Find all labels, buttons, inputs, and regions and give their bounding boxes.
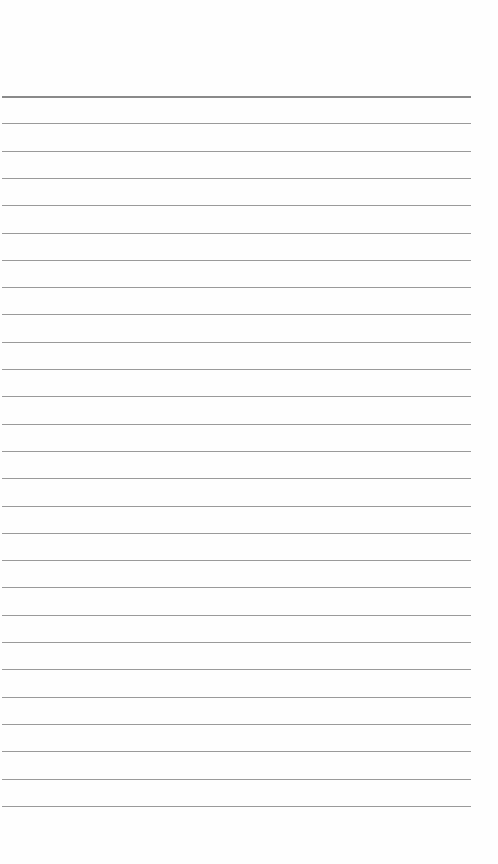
- ruled-line: [2, 205, 471, 206]
- ruled-line: [2, 342, 471, 343]
- ruled-line: [2, 96, 471, 98]
- lined-paper-page: [0, 0, 498, 864]
- ruled-line: [2, 151, 471, 152]
- ruled-line: [2, 642, 471, 643]
- ruled-line: [2, 451, 471, 452]
- ruled-line: [2, 697, 471, 698]
- ruled-line: [2, 669, 471, 670]
- ruled-line: [2, 287, 471, 288]
- ruled-line: [2, 779, 471, 780]
- ruled-line: [2, 615, 471, 616]
- ruled-line: [2, 478, 471, 479]
- ruled-line: [2, 178, 471, 179]
- ruled-line: [2, 260, 471, 261]
- ruled-line: [2, 233, 471, 234]
- ruled-line: [2, 533, 471, 534]
- ruled-line: [2, 724, 471, 725]
- ruled-line: [2, 560, 471, 561]
- ruled-line: [2, 751, 471, 752]
- ruled-line: [2, 396, 471, 397]
- ruled-line: [2, 587, 471, 588]
- ruled-line: [2, 506, 471, 507]
- ruled-line: [2, 314, 471, 315]
- ruled-line: [2, 123, 471, 124]
- ruled-line: [2, 369, 471, 370]
- ruled-line: [2, 806, 471, 807]
- ruled-line: [2, 424, 471, 425]
